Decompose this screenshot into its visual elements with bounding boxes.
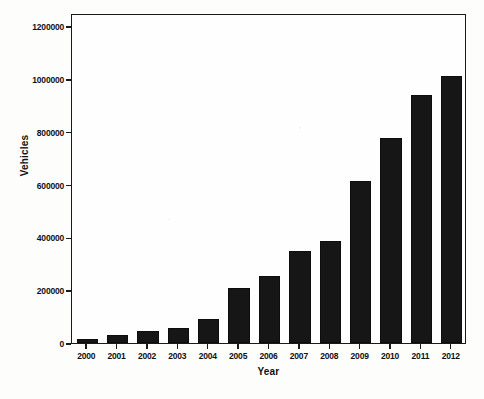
- y-tick-label: 0: [59, 339, 64, 349]
- bar-2011: [411, 95, 432, 343]
- x-tick-mark: [146, 344, 147, 349]
- x-tick-mark: [268, 344, 269, 349]
- x-tick-mark: [420, 344, 421, 349]
- x-tick-mark: [450, 344, 451, 349]
- y-tick-label: 600000: [37, 181, 64, 191]
- x-tick-mark: [298, 344, 299, 349]
- bar-2008: [320, 241, 341, 343]
- bars-layer: [72, 15, 465, 343]
- bar-2002: [137, 331, 158, 343]
- y-tick-label: 800000: [37, 128, 64, 138]
- y-tick-label: 1000000: [32, 75, 64, 85]
- bar-2001: [107, 335, 128, 343]
- bar-2005: [228, 288, 249, 343]
- y-tick-400000: 400000: [37, 232, 71, 244]
- x-tick-2012: 2012: [431, 344, 471, 361]
- y-tick-label: 1200000: [32, 22, 64, 32]
- y-tick-200000: 200000: [37, 285, 71, 297]
- y-tick-1200000: 1200000: [32, 21, 71, 33]
- x-tick-mark: [329, 344, 330, 349]
- x-tick-mark: [177, 344, 178, 349]
- x-axis-title: Year: [71, 366, 466, 377]
- x-tick-mark: [237, 344, 238, 349]
- x-tick-mark: [389, 344, 390, 349]
- bar-2004: [198, 319, 219, 343]
- y-tick-label: 400000: [37, 233, 64, 243]
- y-tick-600000: 600000: [37, 180, 71, 192]
- bar-chart-figure: Vehicles 0200000400000600000800000100000…: [0, 0, 484, 399]
- plot-area: [71, 14, 466, 344]
- bar-2006: [259, 276, 280, 343]
- bar-2010: [380, 138, 401, 343]
- x-tick-label: 2012: [431, 351, 471, 361]
- bar-2000: [77, 339, 98, 343]
- x-tick-mark: [207, 344, 208, 349]
- x-tick-mark: [116, 344, 117, 349]
- y-axis-tick-group: 020000040000060000080000010000001200000: [0, 0, 71, 399]
- bar-2003: [168, 328, 189, 343]
- y-tick-800000: 800000: [37, 127, 71, 139]
- bar-2012: [441, 76, 462, 343]
- bar-2009: [350, 181, 371, 343]
- y-tick-label: 200000: [37, 286, 64, 296]
- x-tick-mark: [359, 344, 360, 349]
- x-tick-mark: [85, 344, 86, 349]
- bar-2007: [289, 251, 310, 343]
- y-tick-1000000: 1000000: [32, 74, 71, 86]
